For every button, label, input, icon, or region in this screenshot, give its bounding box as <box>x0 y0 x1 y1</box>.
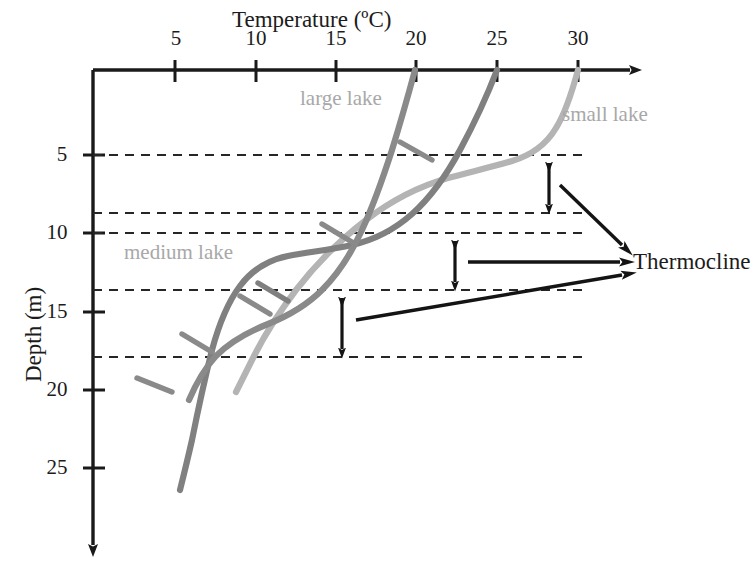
thermocline-pointer-arrows <box>356 185 622 320</box>
curve-hatch-marks <box>137 142 432 392</box>
curve-small-lake <box>236 70 578 392</box>
x-tick-label-20: 20 <box>403 28 429 49</box>
pointer-arrow-bottom <box>356 275 622 320</box>
x-tick-label-10: 10 <box>243 28 269 49</box>
y-tick-label-15: 15 <box>44 301 70 322</box>
x-tick-label-15: 15 <box>323 28 349 49</box>
x-tick-label-5: 5 <box>168 28 184 49</box>
y-tick-label-10: 10 <box>44 222 70 243</box>
y-axis-title: Depth (m) <box>22 287 45 382</box>
thermocline-extent-arrows <box>342 163 549 349</box>
y-tick-label-25: 25 <box>44 457 70 478</box>
y-tick-label-5: 5 <box>54 144 70 165</box>
clipped-caption-strip <box>0 572 751 586</box>
series-label-small-lake: small lake <box>562 104 648 125</box>
x-tick-label-30: 30 <box>565 28 591 49</box>
pointer-arrow-top <box>560 185 622 245</box>
series-label-large-lake: large lake <box>300 88 382 109</box>
y-tick-label-20: 20 <box>44 379 70 400</box>
y-axis <box>83 70 105 545</box>
thermocline-depth-temperature-chart: Temperature (ºC) Depth (m) 5 10 15 20 25… <box>0 0 751 586</box>
curve-medium-lake <box>180 70 497 490</box>
x-axis <box>93 60 630 82</box>
series-label-medium-lake: medium lake <box>124 242 233 263</box>
x-tick-label-25: 25 <box>484 28 510 49</box>
thermocline-annotation-label: Thermocline <box>633 250 751 273</box>
